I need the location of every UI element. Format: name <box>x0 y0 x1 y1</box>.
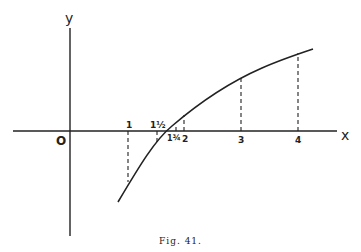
y-axis-label: y <box>65 11 73 25</box>
ordinates <box>128 53 298 182</box>
tick-label-4: 4 <box>295 136 301 145</box>
x-axis-label: x <box>341 128 349 142</box>
curve <box>118 49 313 202</box>
tick-label-1-5: 1½ <box>150 121 166 130</box>
tick-label-1-75: 1¾ <box>167 135 181 143</box>
tick-label-3: 3 <box>238 136 244 145</box>
figure-caption: Fig. 41. <box>0 236 361 246</box>
origin-label: O <box>56 135 66 147</box>
tick-label-2: 2 <box>182 135 188 144</box>
tick-label-1: 1 <box>126 121 132 130</box>
figure-canvas <box>0 0 361 252</box>
